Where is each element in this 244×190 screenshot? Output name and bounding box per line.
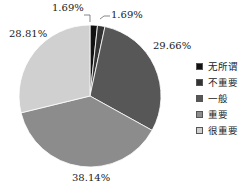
legend-label: 不重要	[208, 75, 238, 89]
legend-label: 很重要	[208, 123, 238, 137]
legend-item-henzhongyao: 很重要	[196, 122, 238, 138]
slice-label-henzhongyao: 28.81%	[9, 28, 47, 39]
legend-item-wusuowei: 无所谓	[196, 58, 238, 74]
legend-label: 无所谓	[208, 59, 238, 73]
slice-label-zhongyao: 38.14%	[72, 172, 110, 183]
legend-swatch	[196, 95, 203, 102]
legend-swatch	[196, 79, 203, 86]
legend-swatch	[196, 127, 203, 134]
legend-label: 重要	[208, 107, 228, 121]
slice-label-buzhongyao: 1.69%	[111, 9, 143, 20]
legend-swatch	[196, 63, 203, 70]
legend-label: 一般	[208, 91, 228, 105]
legend-item-buzhongyao: 不重要	[196, 74, 238, 90]
pie-slices	[19, 25, 161, 167]
legend: 无所谓 不重要 一般 重要 很重要	[196, 58, 238, 138]
legend-swatch	[196, 111, 203, 118]
legend-item-zhongyao: 重要	[196, 106, 238, 122]
slice-label-wusuowei: 1.69%	[52, 2, 84, 13]
slice-label-yiban: 29.66%	[153, 40, 191, 51]
legend-item-yiban: 一般	[196, 90, 238, 106]
leader-line-1	[84, 15, 90, 22]
leader-line-2	[100, 16, 110, 19]
